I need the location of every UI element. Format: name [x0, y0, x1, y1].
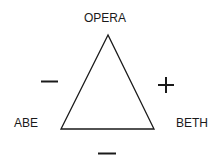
- node-label-abe: ABE: [14, 117, 38, 129]
- node-label-beth: BETH: [176, 117, 208, 129]
- node-label-opera: OPERA: [84, 12, 126, 24]
- triangle-shape: [61, 35, 154, 129]
